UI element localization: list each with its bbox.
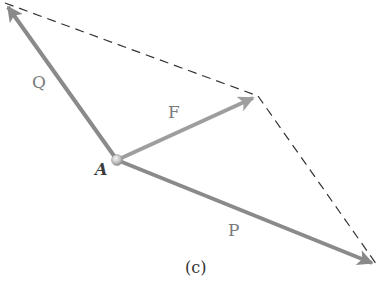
point-a-label: A [95, 162, 107, 178]
vector-diagram: Q F P A (c) [0, 0, 382, 285]
vector-p-arrow [117, 160, 372, 263]
figure-caption: (c) [185, 260, 206, 276]
vector-f-label: F [168, 104, 180, 121]
vector-q-label: Q [32, 74, 46, 91]
point-a-marker [112, 155, 123, 166]
vector-p-label: P [228, 222, 239, 239]
vector-q-arrow [8, 7, 117, 160]
force-parallelogram [0, 0, 382, 285]
vector-f-arrow [117, 98, 253, 160]
